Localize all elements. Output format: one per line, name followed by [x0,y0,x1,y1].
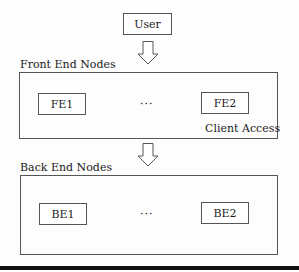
frontend-title: Front End Nodes [20,58,116,71]
user-box: User [123,13,172,35]
user-label: User [134,18,161,31]
architecture-diagram: User Front End Nodes FE1 ··· FE2 Client … [0,0,299,272]
be1-label: BE1 [51,208,74,221]
fe1-label: FE1 [51,98,74,111]
fe2-label: FE2 [214,97,237,110]
bottom-rule [0,266,299,270]
down-arrow-icon [137,41,159,65]
be1-node: BE1 [39,203,87,225]
fe1-node: FE1 [38,93,86,115]
be2-node: BE2 [201,202,249,224]
backend-title: Back End Nodes [20,161,112,174]
client-access-label: Client Access [205,122,280,135]
down-arrow-icon [137,143,159,167]
fe2-node: FE2 [201,92,249,114]
backend-ellipsis: ··· [140,208,154,221]
frontend-ellipsis: ··· [140,98,154,111]
be2-label: BE2 [213,207,236,220]
